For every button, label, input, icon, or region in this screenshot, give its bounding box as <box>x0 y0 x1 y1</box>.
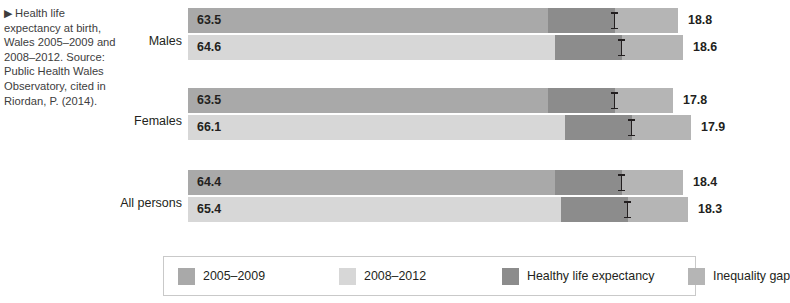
healthy-life-expectancy-marker-icon <box>624 201 631 218</box>
legend-label: 2008–2012 <box>364 269 426 283</box>
bar-segment-healthy-life-expectancy[interactable] <box>561 197 628 222</box>
legend-item[interactable]: Inequality gap <box>688 257 790 295</box>
caption-arrow-icon: ▶ <box>4 7 12 19</box>
bar-row[interactable]: 63.518.8 <box>188 8 738 33</box>
life-expectancy-value: 66.1 <box>197 115 221 140</box>
bar-group-males: Males63.518.864.618.6 <box>120 8 701 63</box>
inequality-gap-value: 18.3 <box>698 197 722 222</box>
bar-row[interactable]: 64.418.4 <box>188 170 743 195</box>
inequality-gap-value: 18.4 <box>693 170 717 195</box>
legend-item[interactable]: Healthy life expectancy <box>502 257 654 295</box>
chart-legend: 2005–20092008–2012Healthy life expectanc… <box>163 256 696 296</box>
life-expectancy-value: 65.4 <box>197 197 221 222</box>
healthy-life-expectancy-marker-icon <box>628 119 635 136</box>
bar-segment-healthy-life-expectancy[interactable] <box>548 8 615 33</box>
life-expectancy-value: 63.5 <box>197 8 221 33</box>
legend-label: Inequality gap <box>713 269 790 283</box>
bar-group-females: Females63.517.866.117.9 <box>120 88 701 143</box>
inequality-gap-value: 17.9 <box>701 115 725 140</box>
legend-swatch-healthy <box>502 268 519 285</box>
legend-swatch-2008-2012 <box>339 268 356 285</box>
life-expectancy-value: 64.4 <box>197 170 221 195</box>
bar-segment-healthy-life-expectancy[interactable] <box>555 170 622 195</box>
inequality-gap-value: 18.8 <box>688 8 712 33</box>
healthy-life-expectancy-marker-icon <box>618 39 625 56</box>
legend-item[interactable]: 2005–2009 <box>178 257 265 295</box>
category-label: All persons <box>120 196 182 210</box>
bar-row[interactable]: 63.517.8 <box>188 88 733 113</box>
legend-swatch-2005-2009 <box>178 268 195 285</box>
inequality-gap-value: 17.8 <box>683 88 707 113</box>
category-label: Males <box>120 34 182 48</box>
life-expectancy-value: 64.6 <box>197 35 221 60</box>
healthy-life-expectancy-marker-icon <box>618 174 625 191</box>
legend-label: 2005–2009 <box>203 269 265 283</box>
inequality-gap-value: 18.6 <box>693 35 717 60</box>
life-expectancy-value: 63.5 <box>197 88 221 113</box>
legend-swatch-gap <box>688 268 705 285</box>
legend-label: Healthy life expectancy <box>527 269 654 283</box>
bar-row[interactable]: 64.618.6 <box>188 35 743 60</box>
figure-caption: ▶ Health life expectancy at birth, Wales… <box>4 6 122 108</box>
caption-text: Health life expectancy at birth, Wales 2… <box>4 7 116 107</box>
healthy-life-expectancy-marker-icon <box>611 92 618 109</box>
bar-group-all-persons: All persons64.418.465.418.3 <box>120 170 701 225</box>
legend-item[interactable]: 2008–2012 <box>339 257 426 295</box>
bar-segment-healthy-life-expectancy[interactable] <box>555 35 622 60</box>
bar-row[interactable]: 66.117.9 <box>188 115 751 140</box>
bar-segment-healthy-life-expectancy[interactable] <box>548 88 615 113</box>
chart-plot-area: Males63.518.864.618.6Females63.517.866.1… <box>120 0 701 246</box>
bar-segment-healthy-life-expectancy[interactable] <box>565 115 632 140</box>
category-label: Females <box>120 114 182 128</box>
healthy-life-expectancy-marker-icon <box>611 12 618 29</box>
bar-row[interactable]: 65.418.3 <box>188 197 748 222</box>
